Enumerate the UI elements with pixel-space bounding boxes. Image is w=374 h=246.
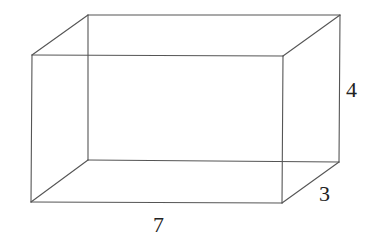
edge-front-bottom-right-to-back-bottom-right	[282, 162, 339, 203]
height-label: 4	[346, 77, 357, 102]
edge-back-top-right-to-back-bottom-right	[339, 15, 340, 162]
prism-edges	[31, 15, 340, 203]
edge-front-top-right-to-front-bottom-right	[282, 56, 283, 203]
edge-front-top-right-to-back-top-right	[283, 15, 340, 56]
edge-back-bottom-right-to-back-bottom-left	[88, 160, 339, 162]
depth-label: 3	[319, 181, 330, 206]
length-label: 7	[153, 212, 164, 237]
edge-front-top-left-to-back-top-left	[32, 15, 88, 55]
edge-front-bottom-left-to-back-bottom-left	[31, 160, 88, 202]
edge-front-bottom-right-to-front-bottom-left	[31, 202, 282, 203]
rectangular-prism-diagram: 4 3 7	[0, 0, 374, 246]
edge-front-bottom-left-to-front-top-left	[31, 55, 32, 202]
edge-front-top-left-to-front-top-right	[32, 55, 283, 56]
